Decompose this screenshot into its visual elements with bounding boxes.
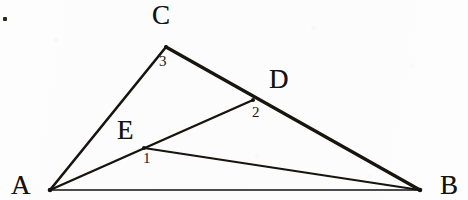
vertex-point-B xyxy=(418,188,423,193)
segment-AD xyxy=(50,100,253,190)
angle-label-2: 2 xyxy=(252,105,260,120)
vertex-label-E: E xyxy=(117,117,134,144)
vertex-label-C: C xyxy=(152,2,170,29)
vertex-point-C xyxy=(164,45,168,49)
figure-canvas xyxy=(0,0,468,200)
vertex-point-D xyxy=(251,98,255,102)
vertex-label-A: A xyxy=(11,172,31,199)
vertex-point-A xyxy=(48,188,53,193)
angle-label-3: 3 xyxy=(159,54,167,69)
angle-label-1: 1 xyxy=(143,151,151,166)
vertex-label-B: B xyxy=(440,172,458,199)
segment-AC xyxy=(50,47,166,190)
segment-EB xyxy=(144,148,420,190)
segment-CB xyxy=(166,47,420,190)
scan-speck xyxy=(3,17,7,21)
geometry-figure: C D E A B 3 2 1 xyxy=(0,0,468,200)
vertex-label-D: D xyxy=(269,66,289,93)
